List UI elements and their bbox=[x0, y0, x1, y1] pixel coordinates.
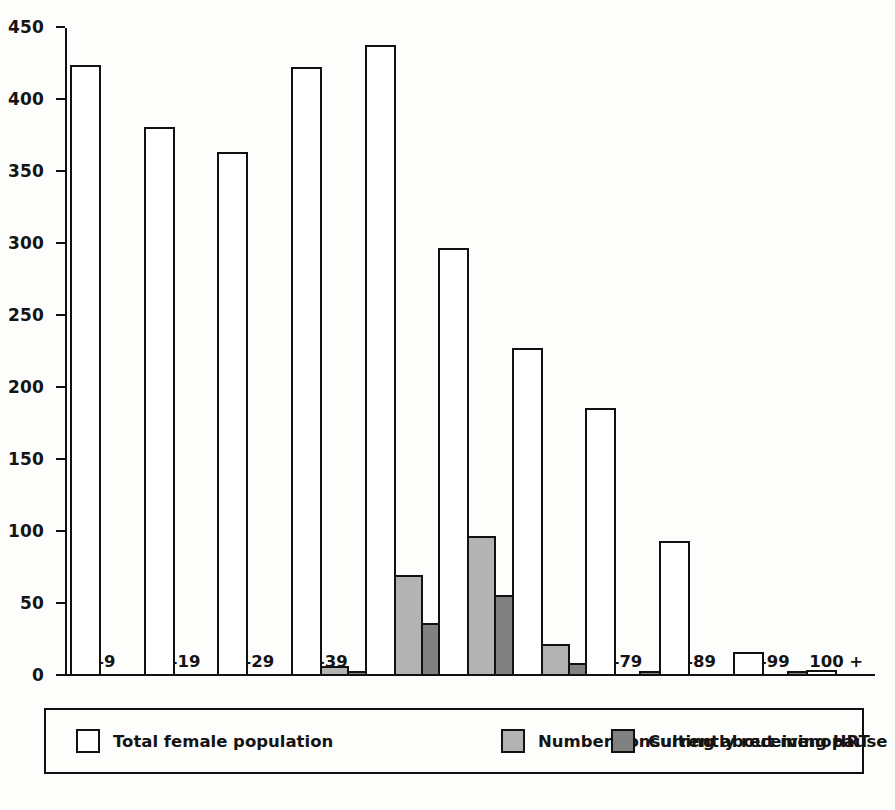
y-tick-50: 50 bbox=[56, 602, 65, 604]
y-tick-label: 100 bbox=[8, 521, 44, 541]
y-tick-0: 0 bbox=[56, 674, 65, 676]
bar bbox=[318, 666, 349, 676]
bar-group bbox=[433, 28, 507, 676]
bar-group bbox=[360, 28, 434, 676]
bar bbox=[585, 408, 616, 676]
x-axis-label: 100 + bbox=[809, 652, 863, 671]
bar bbox=[217, 152, 248, 676]
legend-label: Total female population bbox=[113, 732, 333, 751]
bar bbox=[144, 127, 175, 676]
bar bbox=[512, 348, 543, 676]
bar-group bbox=[286, 28, 360, 676]
y-tick-label: 200 bbox=[8, 377, 44, 397]
plot-area: 050100150200250300350400450 bbox=[65, 28, 875, 676]
bar bbox=[291, 67, 322, 676]
bar-group bbox=[139, 28, 213, 676]
bar bbox=[733, 652, 764, 676]
legend-swatch-icon bbox=[501, 729, 525, 753]
y-tick-label: 450 bbox=[8, 17, 44, 37]
legend-item[interactable]: Total female population bbox=[76, 729, 333, 753]
bar-group bbox=[654, 28, 728, 676]
bar-chart-figure: 050100150200250300350400450 0–910–1920–2… bbox=[0, 0, 895, 810]
bar bbox=[70, 65, 101, 676]
y-tick-200: 200 bbox=[56, 386, 65, 388]
y-tick-label: 0 bbox=[32, 665, 44, 685]
bar bbox=[365, 45, 396, 676]
y-tick-350: 350 bbox=[56, 170, 65, 172]
bar-group bbox=[580, 28, 654, 676]
bar bbox=[438, 248, 469, 676]
bar-group bbox=[507, 28, 581, 676]
y-tick-150: 150 bbox=[56, 458, 65, 460]
bar-group bbox=[65, 28, 139, 676]
legend-item[interactable]: Currently receiving HRT bbox=[611, 729, 870, 753]
y-tick-label: 250 bbox=[8, 305, 44, 325]
y-tick-250: 250 bbox=[56, 314, 65, 316]
legend-swatch-icon bbox=[76, 729, 100, 753]
y-tick-label: 50 bbox=[20, 593, 44, 613]
y-tick-300: 300 bbox=[56, 242, 65, 244]
legend-swatch-icon bbox=[611, 729, 635, 753]
bar-group bbox=[801, 28, 875, 676]
y-tick-label: 300 bbox=[8, 233, 44, 253]
y-tick-100: 100 bbox=[56, 530, 65, 532]
bar bbox=[539, 644, 570, 676]
bar-group bbox=[728, 28, 802, 676]
y-tick-400: 400 bbox=[56, 98, 65, 100]
bar-group bbox=[212, 28, 286, 676]
y-tick-label: 400 bbox=[8, 89, 44, 109]
chart-legend: Total female populationNumber consulting… bbox=[44, 708, 864, 774]
bar bbox=[806, 670, 837, 676]
y-tick-450: 450 bbox=[56, 26, 65, 28]
legend-label: Currently receiving HRT bbox=[648, 732, 870, 751]
y-tick-label: 150 bbox=[8, 449, 44, 469]
bar bbox=[465, 536, 496, 676]
bar bbox=[659, 541, 690, 676]
y-tick-label: 350 bbox=[8, 161, 44, 181]
bar bbox=[392, 575, 423, 676]
